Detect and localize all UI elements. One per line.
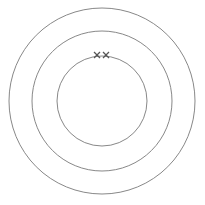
- shell-1-circle: [57, 56, 147, 146]
- diagram-canvas: [0, 0, 205, 205]
- electron-shell-diagram: [0, 0, 205, 205]
- electron-cross-icon: [94, 52, 100, 58]
- shell-2-circle: [32, 31, 172, 171]
- electron-cross-icon: [103, 52, 109, 58]
- shell-3-circle: [9, 8, 195, 194]
